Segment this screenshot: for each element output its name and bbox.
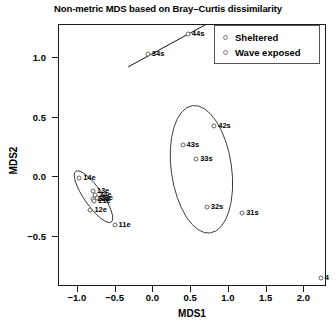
data-point [212,124,217,129]
data-point-label: 14e [83,172,96,181]
y-tick-mark [52,117,58,118]
legend-item-wave-exposed: Wave exposed [220,45,314,60]
y-axis-label: MDS2 [8,126,19,196]
data-point [185,31,190,36]
data-point [92,199,97,204]
data-point-label: 42s [218,121,231,130]
x-tick-label: −0.5 [95,292,135,303]
data-point-label: 33s [200,153,213,162]
open-circle-icon [220,47,231,58]
data-point-label: 32s [211,202,224,211]
data-point [194,156,199,161]
data-point [204,205,209,210]
x-tick-label: 1.0 [208,292,248,303]
ellipse-layer [68,101,240,237]
data-point [112,223,117,228]
data-point [77,175,82,180]
legend: Sheltered Wave exposed [214,25,320,64]
chart-title: Non-metric MDS based on Bray–Curtis diss… [0,3,336,14]
data-point [145,51,150,56]
x-tick-label: 2.0 [283,292,323,303]
data-point [318,275,323,280]
y-tick-label: 0.0 [22,171,46,182]
y-tick-mark [52,176,58,177]
x-tick-label: 0.5 [170,292,210,303]
legend-label: Sheltered [235,32,278,43]
y-tick-label: 1.0 [22,52,46,63]
legend-item-sheltered: Sheltered [220,30,314,45]
legend-label: Wave exposed [235,47,301,58]
open-circle-icon [220,32,231,43]
data-point-label: 12e [94,204,107,213]
y-tick-label: −0.5 [22,230,46,241]
x-axis-label: MDS1 [58,308,326,319]
y-tick-mark [52,236,58,237]
x-tick-label: 1.5 [246,292,286,303]
data-point-label: 44s [192,28,205,37]
data-point [180,143,185,148]
data-point [88,207,93,212]
data-point-label: 4 [325,272,329,281]
data-point [240,211,245,216]
y-tick-mark [52,57,58,58]
data-point-label: 31s [246,208,259,217]
x-tick-label: −1.0 [57,292,97,303]
x-tick-label: 0.0 [132,292,172,303]
data-point-label: 34s [152,48,165,57]
data-point-label: 43s [187,140,200,149]
data-point-label: 11e [119,220,131,229]
y-tick-label: 0.5 [22,111,46,122]
